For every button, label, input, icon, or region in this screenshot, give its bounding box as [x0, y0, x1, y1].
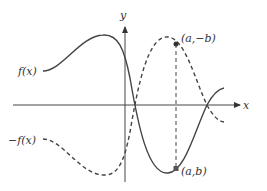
point-a-neg-b-label: (a,−b)	[181, 32, 216, 45]
point-a-b	[174, 166, 179, 171]
point-a-neg-b	[174, 42, 179, 47]
reflection-diagram: x y f(x) −f(x) (a,−b) (a,b)	[0, 0, 267, 191]
neg-f-label: −f(x)	[8, 134, 36, 147]
f-curve	[43, 35, 224, 173]
y-axis-label: y	[119, 9, 127, 22]
x-axis-label: x	[243, 99, 250, 112]
f-label: f(x)	[17, 65, 37, 78]
neg-f-curve	[43, 37, 224, 175]
point-a-b-label: (a,b)	[181, 165, 207, 178]
